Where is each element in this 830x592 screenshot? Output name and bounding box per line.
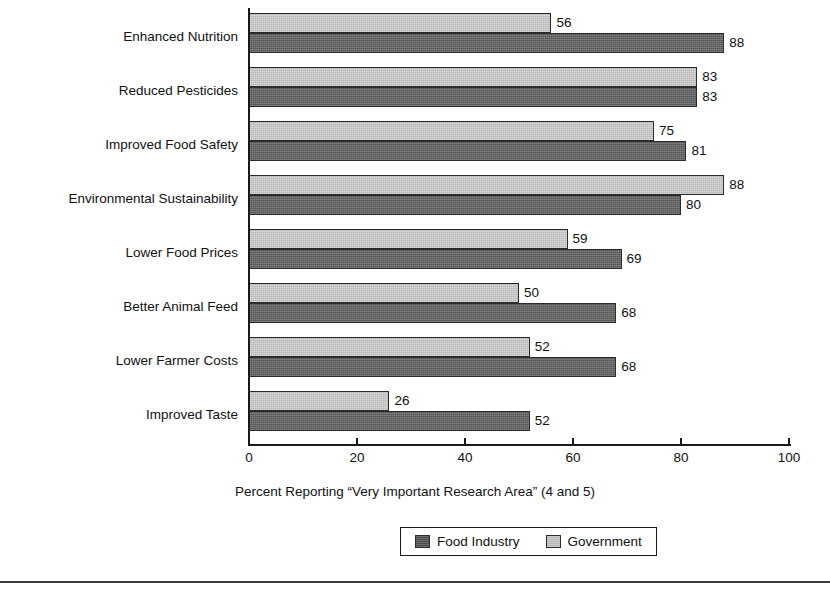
bar-value-label: 83 <box>702 67 717 87</box>
x-axis-line <box>248 444 791 446</box>
bar-value-label: 26 <box>394 391 409 411</box>
bar-government <box>249 391 389 411</box>
bar-food-industry <box>249 141 686 161</box>
legend-label-government: Government <box>568 534 642 549</box>
plot-area: Enhanced Nutrition5688Reduced Pesticides… <box>0 0 830 455</box>
legend-label-food-industry: Food Industry <box>437 534 520 549</box>
bar-food-industry <box>249 303 616 323</box>
bar-government <box>249 121 654 141</box>
legend-entry-food-industry: Food Industry <box>415 534 520 549</box>
bar-value-label: 68 <box>621 357 636 377</box>
category-label: Reduced Pesticides <box>8 84 238 98</box>
legend-swatch-government <box>546 535 561 548</box>
bar-food-industry <box>249 33 724 53</box>
category-label: Improved Food Safety <box>8 138 238 152</box>
bar-value-label: 59 <box>573 229 588 249</box>
bar-government <box>249 175 724 195</box>
bar-value-label: 80 <box>686 195 701 215</box>
bottom-rule <box>0 581 830 583</box>
bar-value-label: 52 <box>535 411 550 431</box>
bar-value-label: 50 <box>524 283 539 303</box>
bar-food-industry <box>249 411 530 431</box>
x-axis-tick-label: 100 <box>759 450 819 465</box>
bar-value-label: 56 <box>556 13 571 33</box>
legend-entry-government: Government <box>546 534 642 549</box>
chart-legend: Food Industry Government <box>400 527 657 556</box>
bar-value-label: 83 <box>702 87 717 107</box>
category-label: Improved Taste <box>8 408 238 422</box>
bar-food-industry <box>249 87 697 107</box>
bar-value-label: 69 <box>627 249 642 269</box>
x-axis-title: Percent Reporting “Very Important Resear… <box>0 484 830 499</box>
bar-government <box>249 283 519 303</box>
x-axis-tick-label: 60 <box>543 450 603 465</box>
category-label: Lower Food Prices <box>8 246 238 260</box>
x-axis-tick-label: 80 <box>651 450 711 465</box>
bar-government <box>249 229 568 249</box>
category-label: Enhanced Nutrition <box>8 30 238 44</box>
bar-chart-figure: Enhanced Nutrition5688Reduced Pesticides… <box>0 0 830 592</box>
bar-value-label: 81 <box>691 141 706 161</box>
bar-food-industry <box>249 195 681 215</box>
category-label: Better Animal Feed <box>8 300 238 314</box>
bar-value-label: 75 <box>659 121 674 141</box>
bar-government <box>249 67 697 87</box>
x-axis-tick-label: 20 <box>327 450 387 465</box>
category-label: Environmental Sustainability <box>8 192 238 206</box>
x-axis-tick-label: 40 <box>435 450 495 465</box>
y-axis-line <box>248 8 250 445</box>
bar-government <box>249 337 530 357</box>
legend-swatch-food-industry <box>415 535 430 548</box>
bar-value-label: 88 <box>729 33 744 53</box>
bar-government <box>249 13 551 33</box>
bar-value-label: 88 <box>729 175 744 195</box>
bar-value-label: 52 <box>535 337 550 357</box>
bar-food-industry <box>249 249 622 269</box>
bar-value-label: 68 <box>621 303 636 323</box>
category-label: Lower Farmer Costs <box>8 354 238 368</box>
x-axis-tick-label: 0 <box>219 450 279 465</box>
bar-food-industry <box>249 357 616 377</box>
